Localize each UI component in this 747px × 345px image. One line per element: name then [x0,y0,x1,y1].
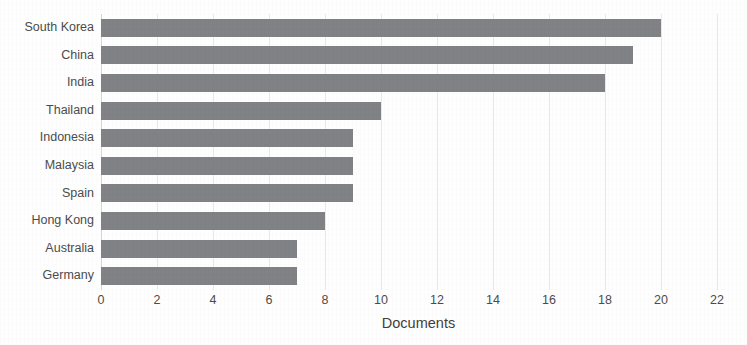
bar-row [101,262,717,290]
bar-india[interactable] [101,74,605,92]
tick-label-2: 2 [154,293,161,307]
plot-area [101,14,717,290]
bar-indonesia[interactable] [101,129,353,147]
gridline-22 [717,14,718,290]
category-label-malaysia: Malaysia [45,152,94,180]
tick-label-6: 6 [266,293,273,307]
bar-series-documents [101,14,717,290]
horizontal-bar-chart: South KoreaChinaIndiaThailandIndonesiaMa… [0,0,747,345]
category-label-thailand: Thailand [46,97,94,125]
tick-label-16: 16 [542,293,556,307]
bar-row [101,152,717,180]
category-axis-labels: South KoreaChinaIndiaThailandIndonesiaMa… [0,14,94,290]
bar-row [101,97,717,125]
tick-label-22: 22 [710,293,724,307]
bar-row [101,235,717,263]
tick-label-20: 20 [654,293,668,307]
tick-label-8: 8 [322,293,329,307]
bar-row [101,207,717,235]
category-label-australia: Australia [45,235,94,263]
bar-spain[interactable] [101,184,353,202]
category-label-spain: Spain [62,180,94,208]
value-axis-title: Documents [0,315,747,331]
category-label-hong-kong: Hong Kong [31,207,94,235]
category-label-china: China [61,42,94,70]
bar-hong-kong[interactable] [101,212,325,230]
bar-row [101,180,717,208]
bar-thailand[interactable] [101,102,381,120]
bar-row [101,42,717,70]
category-label-south-korea: South Korea [25,14,95,42]
tick-label-0: 0 [98,293,105,307]
tick-label-10: 10 [374,293,388,307]
bar-malaysia[interactable] [101,157,353,175]
tick-label-12: 12 [430,293,444,307]
bar-china[interactable] [101,46,633,64]
bar-row [101,124,717,152]
tick-label-18: 18 [598,293,612,307]
bar-row [101,69,717,97]
value-axis-tick-labels: 0246810121416182022 [0,293,747,313]
value-axis-title-text: Documents [382,315,455,331]
category-label-germany: Germany [43,262,94,290]
tick-label-14: 14 [486,293,500,307]
tick-label-4: 4 [210,293,217,307]
bar-south-korea[interactable] [101,19,661,37]
category-label-indonesia: Indonesia [40,124,94,152]
bar-germany[interactable] [101,267,297,285]
bar-australia[interactable] [101,240,297,258]
category-label-india: India [67,69,94,97]
bar-row [101,14,717,42]
